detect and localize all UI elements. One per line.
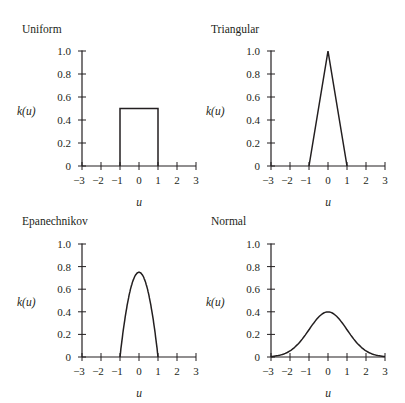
- x-axis-label: u: [325, 387, 331, 399]
- x-axis-label: u: [325, 196, 331, 208]
- y-tick-label: 0.4: [57, 306, 71, 318]
- y-tick-label: 0.6: [57, 283, 71, 295]
- y-tick-label: 0: [255, 351, 261, 363]
- y-axis-label: k(u): [17, 105, 36, 118]
- x-tick-label: −3: [262, 174, 274, 186]
- y-tick-label: 0.8: [57, 68, 71, 80]
- panel-triangular: Triangular00.20.40.60.81.0−3−2−10123k(u)…: [206, 23, 388, 208]
- y-tick-label: 1.0: [246, 238, 260, 250]
- x-tick-label: 1: [155, 365, 161, 377]
- y-tick-label: 0: [66, 160, 72, 172]
- kernel-curve: [271, 312, 385, 357]
- y-tick-label: 0.6: [57, 91, 71, 103]
- x-tick-label: 3: [193, 365, 199, 377]
- x-tick-label: 1: [344, 174, 350, 186]
- panel-title: Uniform: [22, 23, 62, 35]
- x-tick-label: 3: [382, 174, 388, 186]
- x-tick-label: −2: [281, 174, 293, 186]
- kernel-functions-figure: Uniform00.20.40.60.81.0−3−2−10123k(u)u T…: [0, 0, 405, 403]
- x-tick-label: −2: [281, 365, 293, 377]
- y-tick-label: 0.8: [246, 261, 260, 273]
- y-axis-label: k(u): [206, 296, 225, 309]
- x-tick-label: 3: [382, 365, 388, 377]
- y-tick-label: 0.6: [246, 283, 260, 295]
- kernel-curve: [309, 51, 347, 166]
- y-tick-label: 0.2: [57, 328, 71, 340]
- y-tick-label: 0.2: [246, 328, 260, 340]
- x-tick-label: 2: [174, 174, 180, 186]
- y-tick-label: 0.4: [246, 114, 260, 126]
- x-tick-label: −3: [262, 365, 274, 377]
- y-tick-label: 0.8: [246, 68, 260, 80]
- x-axis-label: u: [136, 387, 142, 399]
- y-tick-label: 1.0: [57, 45, 71, 57]
- x-tick-label: 0: [136, 174, 142, 186]
- y-tick-label: 0: [66, 351, 72, 363]
- y-tick-label: 1.0: [246, 45, 260, 57]
- y-axis-label: k(u): [17, 296, 36, 309]
- x-tick-label: 3: [193, 174, 199, 186]
- y-tick-label: 0.4: [57, 114, 71, 126]
- x-tick-label: 0: [325, 365, 331, 377]
- y-axis-label: k(u): [206, 105, 225, 118]
- kernel-curve: [120, 109, 158, 167]
- x-tick-label: −1: [111, 174, 123, 186]
- y-tick-label: 0.4: [246, 306, 260, 318]
- kernel-curve: [120, 272, 158, 357]
- x-tick-label: 2: [363, 365, 369, 377]
- y-tick-label: 0.2: [246, 137, 260, 149]
- x-tick-label: −2: [92, 365, 104, 377]
- y-tick-label: 0: [255, 160, 261, 172]
- panel-epanechnikov: Epanechnikov00.20.40.60.81.0−3−2−10123k(…: [17, 215, 199, 399]
- x-tick-label: −2: [92, 174, 104, 186]
- panel-normal: Normal00.20.40.60.81.0−3−2−10123k(u)u: [206, 215, 388, 399]
- x-tick-label: −3: [73, 365, 85, 377]
- x-tick-label: 0: [136, 365, 142, 377]
- y-tick-label: 0.8: [57, 261, 71, 273]
- x-tick-label: 1: [155, 174, 161, 186]
- x-tick-label: −1: [111, 365, 123, 377]
- x-tick-label: 2: [174, 365, 180, 377]
- panel-uniform: Uniform00.20.40.60.81.0−3−2−10123k(u)u: [17, 23, 199, 208]
- x-tick-label: −1: [300, 365, 312, 377]
- panel-title: Triangular: [211, 23, 259, 36]
- y-tick-label: 1.0: [57, 238, 71, 250]
- y-tick-label: 0.2: [57, 137, 71, 149]
- x-tick-label: −1: [300, 174, 312, 186]
- x-tick-label: 2: [363, 174, 369, 186]
- y-tick-label: 0.6: [246, 91, 260, 103]
- x-tick-label: 1: [344, 365, 350, 377]
- panel-title: Normal: [211, 215, 246, 227]
- x-axis-label: u: [136, 196, 142, 208]
- panel-title: Epanechnikov: [22, 215, 88, 228]
- x-tick-label: 0: [325, 174, 331, 186]
- x-tick-label: −3: [73, 174, 85, 186]
